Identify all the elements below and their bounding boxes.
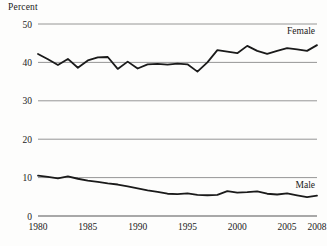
x-tick-label-2008: 2008	[308, 222, 327, 232]
series-label-female: Female	[287, 26, 315, 36]
series-line-male	[38, 176, 317, 198]
y-tick-label-20: 20	[23, 135, 33, 145]
x-tick-label-2005: 2005	[278, 222, 297, 232]
x-tick-label-1980: 1980	[29, 222, 48, 232]
y-tick-label-40: 40	[23, 58, 33, 68]
chart-container: Percent 01020304050198019851990199520002…	[0, 0, 327, 246]
x-tick-label-2000: 2000	[228, 222, 247, 232]
y-tick-label-10: 10	[23, 173, 33, 183]
y-tick-label-30: 30	[23, 96, 33, 106]
x-tick-label-1995: 1995	[178, 222, 197, 232]
line-chart-plot: 010203040501980198519901995200020052008F…	[0, 0, 327, 246]
y-tick-label-50: 50	[23, 20, 33, 30]
series-label-male: Male	[295, 180, 315, 190]
y-tick-label-0: 0	[27, 212, 32, 222]
x-tick-label-1990: 1990	[128, 222, 147, 232]
series-line-female	[38, 45, 317, 72]
x-tick-label-1985: 1985	[78, 222, 97, 232]
